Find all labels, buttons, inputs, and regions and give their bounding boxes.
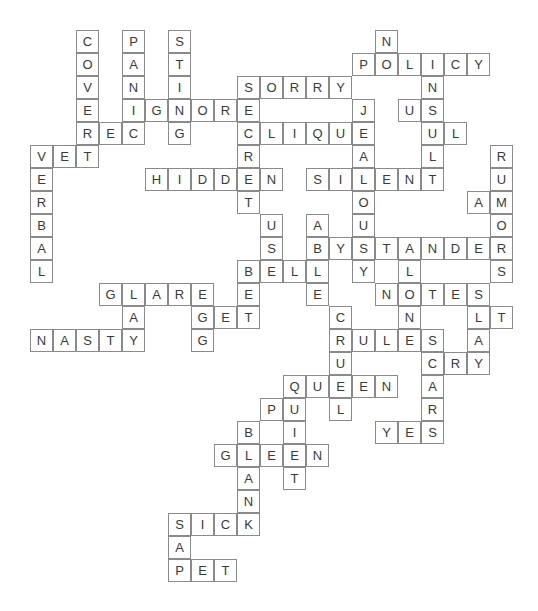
crossword-cell[interactable]: E xyxy=(352,122,375,145)
crossword-cell[interactable]: L xyxy=(306,260,329,283)
crossword-cell[interactable]: G xyxy=(168,122,191,145)
crossword-cell[interactable]: S xyxy=(168,30,191,53)
crossword-cell[interactable]: I xyxy=(168,168,191,191)
crossword-cell[interactable]: G xyxy=(191,329,214,352)
crossword-cell[interactable]: R xyxy=(237,145,260,168)
crossword-cell[interactable]: O xyxy=(352,191,375,214)
crossword-cell[interactable]: N xyxy=(122,76,145,99)
crossword-cell[interactable]: T xyxy=(283,467,306,490)
crossword-cell[interactable]: P xyxy=(260,398,283,421)
crossword-cell[interactable]: I xyxy=(191,513,214,536)
crossword-cell[interactable]: A xyxy=(122,306,145,329)
crossword-cell[interactable]: N xyxy=(375,375,398,398)
crossword-cell[interactable]: Y xyxy=(467,53,490,76)
crossword-cell[interactable]: T xyxy=(76,145,99,168)
crossword-cell[interactable]: N xyxy=(237,490,260,513)
crossword-cell[interactable]: G xyxy=(99,283,122,306)
crossword-cell[interactable]: U xyxy=(398,99,421,122)
crossword-cell[interactable]: O xyxy=(375,53,398,76)
crossword-cell[interactable]: R xyxy=(283,76,306,99)
crossword-cell[interactable]: D xyxy=(444,237,467,260)
crossword-cell[interactable]: V xyxy=(76,76,99,99)
crossword-cell[interactable]: E xyxy=(237,283,260,306)
crossword-cell[interactable]: L xyxy=(467,306,490,329)
crossword-cell[interactable]: E xyxy=(444,283,467,306)
crossword-cell[interactable]: Y xyxy=(329,237,352,260)
crossword-cell[interactable]: C xyxy=(214,513,237,536)
crossword-cell[interactable]: U xyxy=(352,329,375,352)
crossword-cell[interactable]: I xyxy=(168,76,191,99)
crossword-cell[interactable]: R xyxy=(30,191,53,214)
crossword-cell[interactable]: A xyxy=(53,329,76,352)
crossword-cell[interactable]: A xyxy=(237,467,260,490)
crossword-cell[interactable]: N xyxy=(421,237,444,260)
crossword-cell[interactable]: R xyxy=(306,76,329,99)
crossword-cell[interactable]: R xyxy=(490,145,513,168)
crossword-cell[interactable]: T xyxy=(375,237,398,260)
crossword-cell[interactable]: U xyxy=(352,214,375,237)
crossword-cell[interactable]: T xyxy=(168,53,191,76)
crossword-cell[interactable]: B xyxy=(237,260,260,283)
crossword-cell[interactable]: S xyxy=(168,513,191,536)
crossword-cell[interactable]: L xyxy=(329,398,352,421)
crossword-cell[interactable]: R xyxy=(168,283,191,306)
crossword-cell[interactable]: L xyxy=(122,283,145,306)
crossword-cell[interactable]: C xyxy=(421,352,444,375)
crossword-cell[interactable]: N xyxy=(260,168,283,191)
crossword-cell[interactable]: B xyxy=(237,421,260,444)
crossword-cell[interactable]: B xyxy=(306,237,329,260)
crossword-cell[interactable]: C xyxy=(237,122,260,145)
crossword-cell[interactable]: Y xyxy=(352,260,375,283)
crossword-cell[interactable]: N xyxy=(306,444,329,467)
crossword-cell[interactable]: G xyxy=(191,306,214,329)
crossword-cell[interactable]: U xyxy=(329,122,352,145)
crossword-cell[interactable]: S xyxy=(467,283,490,306)
crossword-cell[interactable]: E xyxy=(306,283,329,306)
crossword-cell[interactable]: G xyxy=(214,444,237,467)
crossword-cell[interactable]: N xyxy=(398,168,421,191)
crossword-cell[interactable]: A xyxy=(421,375,444,398)
crossword-cell[interactable]: R xyxy=(490,237,513,260)
crossword-cell[interactable]: O xyxy=(260,76,283,99)
crossword-cell[interactable]: I xyxy=(283,421,306,444)
crossword-cell[interactable]: S xyxy=(421,329,444,352)
crossword-cell[interactable]: S xyxy=(421,99,444,122)
crossword-cell[interactable]: T xyxy=(421,168,444,191)
crossword-cell[interactable]: E xyxy=(398,421,421,444)
crossword-cell[interactable]: P xyxy=(168,559,191,582)
crossword-cell[interactable]: E xyxy=(76,99,99,122)
crossword-cell[interactable]: E xyxy=(191,283,214,306)
crossword-cell[interactable]: E xyxy=(214,306,237,329)
crossword-cell[interactable]: A xyxy=(145,283,168,306)
crossword-cell[interactable]: G xyxy=(145,99,168,122)
crossword-cell[interactable]: Y xyxy=(122,329,145,352)
crossword-cell[interactable]: T xyxy=(421,283,444,306)
crossword-cell[interactable]: R xyxy=(421,398,444,421)
crossword-cell[interactable]: A xyxy=(467,191,490,214)
crossword-cell[interactable]: E xyxy=(191,559,214,582)
crossword-cell[interactable]: L xyxy=(421,145,444,168)
crossword-cell[interactable]: U xyxy=(421,122,444,145)
crossword-cell[interactable]: L xyxy=(283,260,306,283)
crossword-cell[interactable]: L xyxy=(375,329,398,352)
crossword-cell[interactable]: T xyxy=(237,191,260,214)
crossword-cell[interactable]: L xyxy=(30,260,53,283)
crossword-cell[interactable]: N xyxy=(30,329,53,352)
crossword-cell[interactable]: J xyxy=(352,99,375,122)
crossword-cell[interactable]: Q xyxy=(283,375,306,398)
crossword-cell[interactable]: E xyxy=(352,375,375,398)
crossword-cell[interactable]: S xyxy=(260,237,283,260)
crossword-cell[interactable]: U xyxy=(283,398,306,421)
crossword-cell[interactable]: L xyxy=(237,444,260,467)
crossword-cell[interactable]: S xyxy=(237,76,260,99)
crossword-cell[interactable]: E xyxy=(260,260,283,283)
crossword-cell[interactable]: L xyxy=(398,53,421,76)
crossword-cell[interactable]: T xyxy=(214,559,237,582)
crossword-cell[interactable]: Q xyxy=(306,122,329,145)
crossword-cell[interactable]: P xyxy=(352,53,375,76)
crossword-cell[interactable]: Y xyxy=(329,76,352,99)
crossword-cell[interactable]: P xyxy=(122,30,145,53)
crossword-cell[interactable]: T xyxy=(99,329,122,352)
crossword-cell[interactable]: E xyxy=(30,168,53,191)
crossword-cell[interactable]: R xyxy=(329,329,352,352)
